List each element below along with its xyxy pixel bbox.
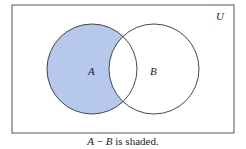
set-b-label: B (150, 65, 157, 77)
set-a-label: A (87, 65, 95, 77)
caption: A − B is shaded. (0, 135, 246, 147)
caption-set-b: B (106, 135, 113, 147)
caption-operator: − (94, 135, 106, 147)
universe-label: U (216, 10, 225, 22)
caption-text: is shaded. (113, 135, 159, 147)
venn-diagram: A B U (0, 0, 246, 149)
